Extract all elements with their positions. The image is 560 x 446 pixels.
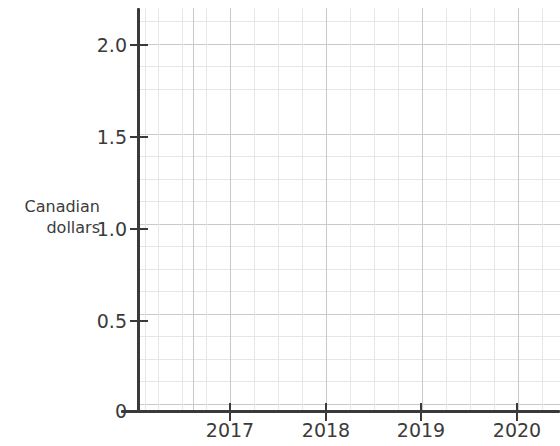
chart-title — [0, 0, 560, 4]
y-axis-title-line-1: Canadian — [0, 196, 100, 217]
x-tick-label-2019: 2019 — [381, 419, 461, 441]
y-tick-mark-1-5 — [130, 136, 148, 138]
y-tick-mark-0-5 — [130, 320, 148, 322]
y-tick-label-0-5: 0.5 — [83, 310, 127, 332]
y-tick-label-2-0: 2.0 — [83, 34, 127, 56]
x-axis-spine — [121, 410, 560, 413]
y-tick-label-0: 0 — [83, 400, 127, 422]
y-tick-mark-2-0 — [130, 44, 148, 46]
plot-grid-area — [139, 8, 560, 412]
y-tick-mark-1-0 — [130, 228, 148, 230]
x-tick-label-2020: 2020 — [477, 419, 557, 441]
x-tick-label-2017: 2017 — [190, 419, 270, 441]
x-tick-label-2018: 2018 — [286, 419, 366, 441]
y-axis-title: Canadian dollars — [0, 196, 100, 238]
y-axis-spine — [137, 8, 140, 413]
y-axis-title-line-2: dollars — [0, 217, 100, 238]
y-tick-label-1-5: 1.5 — [83, 126, 127, 148]
y-tick-mark-0 — [130, 410, 148, 412]
chart-container: 2.0 1.5 1.0 0.5 0 2017 2018 2019 2020 Ca… — [0, 0, 560, 446]
